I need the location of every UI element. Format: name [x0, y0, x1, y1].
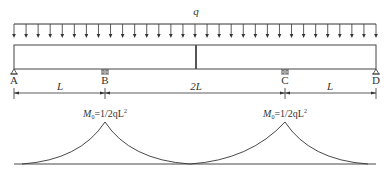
- arrowhead-icon: [193, 34, 197, 38]
- arrowhead-icon: [97, 34, 101, 38]
- arrowhead-icon: [48, 34, 52, 38]
- support-label-c: C: [281, 74, 288, 86]
- arrowhead-icon: [254, 34, 258, 38]
- span-label-bc: 2L: [190, 80, 202, 92]
- moment-label-b: M0=1/2qL2: [82, 108, 127, 120]
- arrowhead-icon: [338, 34, 342, 38]
- arrowhead-icon: [362, 34, 366, 38]
- load-label: q: [193, 5, 199, 17]
- arrowhead-icon: [205, 34, 209, 38]
- arrowhead-icon: [169, 34, 173, 38]
- distributed-load-arrows: [12, 24, 378, 38]
- moment-label-c: M0=1/2qL2: [262, 108, 307, 120]
- arrowhead-icon: [85, 34, 89, 38]
- arrowhead-icon: [109, 34, 113, 38]
- arrowhead-icon: [145, 34, 149, 38]
- arrowhead-icon: [326, 34, 330, 38]
- arrowhead-icon: [157, 34, 161, 38]
- support-label-b: B: [101, 74, 108, 86]
- arrowhead-icon: [73, 34, 77, 38]
- moment-curve: [22, 122, 368, 164]
- arrowhead-icon: [133, 34, 137, 38]
- span-label-ab: L: [56, 80, 63, 92]
- arrowhead-icon: [241, 34, 245, 38]
- support-label-a: A: [10, 74, 18, 86]
- arrowhead-icon: [60, 34, 64, 38]
- arrowhead-icon: [12, 34, 16, 38]
- arrowhead-icon: [266, 34, 270, 38]
- arrowhead-icon: [314, 34, 318, 38]
- arrowhead-icon: [36, 34, 40, 38]
- arrowhead-icon: [350, 34, 354, 38]
- arrowhead-icon: [374, 34, 378, 38]
- arrowhead-icon: [217, 34, 221, 38]
- arrowhead-icon: [121, 34, 125, 38]
- arrowhead-icon: [278, 34, 282, 38]
- span-label-cd: L: [326, 80, 333, 92]
- arrowhead-icon: [302, 34, 306, 38]
- arrowhead-icon: [229, 34, 233, 38]
- arrowhead-icon: [24, 34, 28, 38]
- arrowhead-icon: [181, 34, 185, 38]
- beam-diagram: q A B C D L 2L L: [0, 0, 390, 177]
- arrowhead-icon: [290, 34, 294, 38]
- support-label-d: D: [372, 74, 380, 86]
